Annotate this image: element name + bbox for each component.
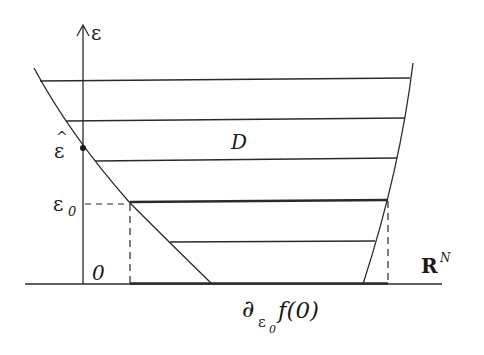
epsilon-axis-label: ε <box>91 21 101 45</box>
level-line-3 <box>95 158 397 161</box>
origin-label: 0 <box>92 261 105 285</box>
epsilon-zero-label: ε <box>53 192 63 216</box>
partial-symbol: ∂ <box>242 295 254 323</box>
level-line-2 <box>66 118 405 121</box>
epsilon-zero-subscript: 0 <box>68 204 76 219</box>
left-boundary-curve <box>34 68 212 284</box>
rn-space-superscript: N <box>439 251 451 265</box>
epsilon-subdifferential-diagram: ε ^ ε ε 0 0 D R N ∂ ε 0 f(0) <box>0 0 484 355</box>
epsilon-hat-point <box>80 145 86 151</box>
region-d-label: D <box>230 130 247 154</box>
subdiff-function: f(0) <box>276 297 319 323</box>
level-line-1 <box>40 78 410 81</box>
subdifferential-label: ∂ ε 0 f(0) <box>242 295 319 336</box>
subdiff-epsilon-subscript: ε <box>258 313 266 331</box>
level-line-5 <box>170 241 375 242</box>
epsilon-hat-label: ε <box>54 139 64 163</box>
subdiff-zero-subsubscript: 0 <box>269 323 276 336</box>
rn-space-label: R <box>421 254 438 278</box>
level-line-epsilon0 <box>130 200 388 202</box>
